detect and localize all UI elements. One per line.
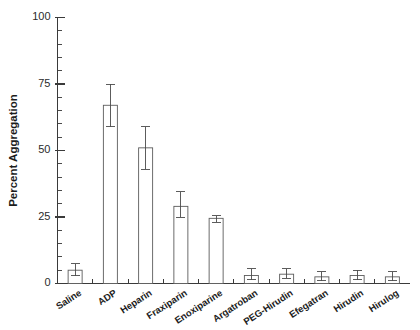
x-axis-category-label: Hirudin: [331, 287, 365, 314]
bar-group: [209, 216, 223, 284]
y-axis-tick-label: 50: [38, 143, 50, 155]
bar-group: [385, 272, 399, 284]
x-axis-category-label: Hirulog: [367, 287, 401, 314]
x-axis-tick-labels: SalineADPHeparinFraxiparinEnoxiparineArg…: [54, 287, 401, 327]
x-axis-category-label: ADP: [96, 287, 119, 308]
bar-group: [280, 269, 294, 284]
y-axis-title-text: Percent Aggregation: [7, 94, 19, 207]
y-axis-tick-label: 0: [44, 276, 50, 288]
bar-group: [68, 264, 82, 284]
x-axis-category-label: Saline: [54, 287, 83, 311]
y-axis-tick-label: 25: [38, 210, 50, 222]
bar-rect: [174, 206, 188, 283]
bar-group: [315, 272, 329, 284]
bar-group: [350, 270, 364, 283]
bar-rect: [209, 218, 223, 283]
y-axis-tick-label: 100: [32, 10, 50, 22]
x-axis-category-label: Efegatran: [287, 287, 330, 320]
bar-group: [103, 84, 117, 284]
aggregation-bar-chart: 0255075100 Percent Aggregation SalineADP…: [0, 0, 420, 330]
bar-series: [68, 84, 399, 284]
y-axis-title: Percent Aggregation: [7, 94, 19, 207]
bar-rect: [103, 105, 117, 283]
y-axis-tick-label: 75: [38, 77, 50, 89]
bar-group: [174, 192, 188, 284]
bar-group: [139, 127, 153, 284]
chart-canvas: 0255075100 Percent Aggregation SalineADP…: [0, 0, 420, 330]
bar-group: [244, 269, 258, 284]
y-axis: 0255075100: [32, 10, 64, 288]
